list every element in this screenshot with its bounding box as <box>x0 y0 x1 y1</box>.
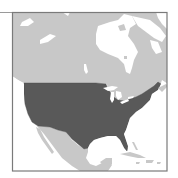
pacific-coast-water <box>12 76 24 171</box>
belcher-islands <box>124 56 127 59</box>
locator-map <box>0 0 178 178</box>
